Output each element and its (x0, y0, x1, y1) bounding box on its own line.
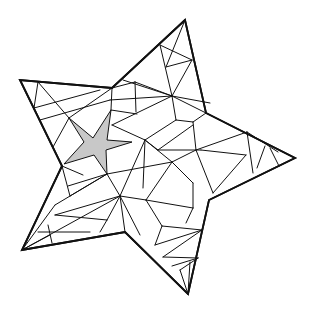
star-diagram-svg (0, 0, 312, 318)
star-diagram (0, 0, 312, 318)
outer-star (20, 20, 295, 294)
